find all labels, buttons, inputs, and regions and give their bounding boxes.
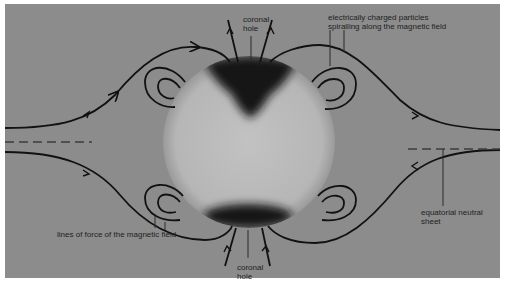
arrow-icon xyxy=(412,162,418,170)
label-lines-of-force: lines of force of the magnetic field xyxy=(57,230,176,239)
label-coronal-hole-bottom: coronal hole xyxy=(237,263,263,281)
label-coronal-hole-top: coronal hole xyxy=(243,15,269,33)
label-charged-particles: electrically charged particles spirallin… xyxy=(328,13,446,31)
arrow-icon xyxy=(262,246,269,252)
sun xyxy=(163,56,335,228)
arrow-icon xyxy=(83,170,89,176)
magnetic-field-diagram xyxy=(0,0,506,286)
coronal-hole-bottom xyxy=(204,204,292,228)
label-neutral-sheet: equatorial neutral sheet xyxy=(421,208,483,226)
